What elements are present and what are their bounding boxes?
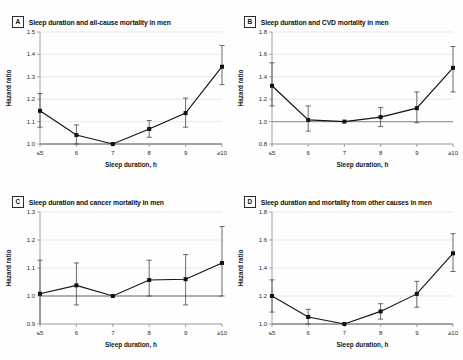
y-axis-title: Hazard ratio xyxy=(5,249,12,286)
y-tick-label: 1.3 xyxy=(27,209,36,215)
x-tick-label: ≥10 xyxy=(448,330,459,336)
y-tick-label: 1.1 xyxy=(27,265,36,271)
data-point-marker xyxy=(415,292,419,296)
data-point-marker xyxy=(342,120,346,124)
x-tick-label: 9 xyxy=(415,330,419,336)
data-point-marker xyxy=(270,294,274,298)
chart-svg-b: 0.81.01.21.41.61.8≤56789≥10Sleep duratio… xyxy=(232,26,463,176)
series-line xyxy=(272,253,453,324)
y-tick-label: 1.0 xyxy=(27,141,36,147)
data-point-marker xyxy=(111,294,115,298)
y-tick-label: 1.3 xyxy=(27,74,36,80)
x-tick-label: 9 xyxy=(415,150,419,156)
x-tick-label: 9 xyxy=(184,330,188,336)
panel-d-title: Sleep duration and mortality from other … xyxy=(261,199,432,206)
x-axis-title: Sleep duration, h xyxy=(105,161,157,169)
x-tick-label: 6 xyxy=(307,330,311,336)
panel-c-title: Sleep duration and cancer mortality in m… xyxy=(29,199,164,206)
data-point-marker xyxy=(184,111,188,115)
panel-c: C Sleep duration and cancer mortality in… xyxy=(0,180,232,360)
y-tick-label: 1.8 xyxy=(259,29,268,35)
y-tick-label: 1.2 xyxy=(259,96,268,102)
data-point-marker xyxy=(147,127,151,131)
data-point-marker xyxy=(379,115,383,119)
x-tick-label: 8 xyxy=(148,330,152,336)
x-tick-label: 8 xyxy=(379,330,383,336)
series-line xyxy=(272,68,453,122)
y-tick-label: 1.2 xyxy=(259,293,268,299)
y-tick-label: 1.2 xyxy=(27,237,36,243)
chart-svg-d: 1.01.21.41.61.8≤56789≥10Sleep duration, … xyxy=(232,206,463,356)
x-axis-title: Sleep duration, h xyxy=(337,161,389,169)
y-tick-label: 1.5 xyxy=(27,29,36,35)
y-tick-label: 1.2 xyxy=(27,96,36,102)
figure-panel-grid: A Sleep duration and all-cause mortality… xyxy=(0,0,463,360)
y-tick-label: 0.9 xyxy=(27,321,36,327)
y-tick-label: 1.6 xyxy=(259,237,268,243)
x-tick-label: 8 xyxy=(379,150,383,156)
data-point-marker xyxy=(306,315,310,319)
x-axis-title: Sleep duration, h xyxy=(105,341,157,349)
x-tick-label: 6 xyxy=(75,330,79,336)
data-point-marker xyxy=(451,66,455,70)
data-point-marker xyxy=(74,133,78,137)
panel-a: A Sleep duration and all-cause mortality… xyxy=(0,0,232,180)
y-axis-title: Hazard ratio xyxy=(237,249,244,286)
y-tick-label: 1.1 xyxy=(27,119,36,125)
chart-svg-c: 0.91.01.11.21.3≤56789≥10Sleep duration, … xyxy=(0,206,232,356)
x-axis-title: Sleep duration, h xyxy=(337,341,389,349)
x-tick-label: ≤5 xyxy=(269,150,276,156)
x-tick-label: 6 xyxy=(307,150,311,156)
series-line xyxy=(40,67,222,144)
panel-b-title: Sleep duration and CVD mortality in men xyxy=(261,19,389,26)
y-tick-label: 1.0 xyxy=(259,119,268,125)
panel-b-plot: 0.81.01.21.41.61.8≤56789≥10Sleep duratio… xyxy=(232,26,463,176)
data-point-marker xyxy=(74,283,78,287)
panel-d: D Sleep duration and mortality from othe… xyxy=(232,180,463,360)
y-tick-label: 1.4 xyxy=(259,265,268,271)
x-tick-label: 7 xyxy=(111,330,115,336)
x-tick-label: ≤5 xyxy=(37,150,44,156)
data-point-marker xyxy=(306,118,310,122)
x-tick-label: ≤5 xyxy=(37,330,44,336)
x-tick-label: 7 xyxy=(111,150,115,156)
y-tick-label: 1.4 xyxy=(259,74,268,80)
data-point-marker xyxy=(220,261,224,265)
x-tick-label: 8 xyxy=(148,150,152,156)
chart-svg-a: 1.01.11.21.31.41.5≤56789≥10Sleep duratio… xyxy=(0,26,232,176)
data-point-marker xyxy=(379,309,383,313)
y-axis-title: Hazard ratio xyxy=(237,69,244,106)
y-tick-label: 0.8 xyxy=(259,141,268,147)
data-point-marker xyxy=(220,65,224,69)
y-tick-label: 1.6 xyxy=(259,51,268,57)
x-tick-label: ≤5 xyxy=(269,330,276,336)
y-tick-label: 1.0 xyxy=(27,293,36,299)
data-point-marker xyxy=(184,277,188,281)
data-point-marker xyxy=(111,142,115,146)
panel-d-plot: 1.01.21.41.61.8≤56789≥10Sleep duration, … xyxy=(232,206,463,356)
y-axis-title: Hazard ratio xyxy=(5,69,12,106)
y-tick-label: 1.8 xyxy=(259,209,268,215)
x-tick-label: 7 xyxy=(343,150,347,156)
x-tick-label: ≥10 xyxy=(217,150,228,156)
panel-a-plot: 1.01.11.21.31.41.5≤56789≥10Sleep duratio… xyxy=(0,26,232,176)
x-tick-label: 6 xyxy=(75,150,79,156)
data-point-marker xyxy=(38,292,42,296)
x-tick-label: 7 xyxy=(343,330,347,336)
data-point-marker xyxy=(270,84,274,88)
panel-c-plot: 0.91.01.11.21.3≤56789≥10Sleep duration, … xyxy=(0,206,232,356)
y-tick-label: 1.0 xyxy=(259,321,268,327)
data-point-marker xyxy=(451,251,455,255)
data-point-marker xyxy=(147,278,151,282)
y-tick-label: 1.4 xyxy=(27,51,36,57)
x-tick-label: ≥10 xyxy=(448,150,459,156)
x-tick-label: ≥10 xyxy=(217,330,228,336)
data-point-marker xyxy=(342,322,346,326)
panel-a-title: Sleep duration and all-cause mortality i… xyxy=(29,19,171,26)
data-point-marker xyxy=(38,109,42,113)
panel-b: B Sleep duration and CVD mortality in me… xyxy=(232,0,463,180)
x-tick-label: 9 xyxy=(184,150,188,156)
data-point-marker xyxy=(415,106,419,110)
